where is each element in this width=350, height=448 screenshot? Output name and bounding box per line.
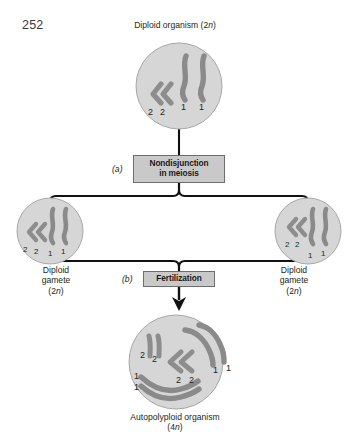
- chromosome-label: 2: [148, 107, 153, 117]
- caption-text: Diploid organism (2n): [134, 20, 216, 30]
- connector-box-to-gametes: [50, 183, 308, 206]
- caption-diploid-gamete-left: Diploid gamete (2n): [8, 265, 104, 296]
- process-box-fertilization: Fertilization: [143, 271, 215, 287]
- chromosome-label: 2: [176, 375, 181, 385]
- chromosome-label: 2: [285, 240, 290, 249]
- chromosome-label: 2: [23, 245, 28, 254]
- process-box-nondisjunction: Nondisjunction in meiosis: [133, 155, 225, 183]
- chromosome-label: 1: [321, 249, 326, 258]
- chromosome-label: 2: [152, 354, 157, 364]
- caption-line-3: (2n): [8, 286, 104, 296]
- chromosome-label: 2: [189, 375, 194, 385]
- caption-line-1: Diploid: [8, 265, 104, 275]
- caption-line-3: (2n): [246, 286, 342, 296]
- autopolyploidy-figure: 2 2 1 1 2 2 1 1: [0, 0, 350, 448]
- caption-line-1: Autopolyploid organism: [85, 412, 265, 422]
- chromosome-label: 1: [226, 363, 231, 373]
- process-marker-a: (a): [112, 164, 123, 174]
- chromosome-label: 2: [160, 107, 165, 117]
- chromosome-label: 1: [308, 251, 313, 260]
- chromosome-label: 1: [199, 102, 204, 112]
- cell-diploid-gamete-right: 2 2 1 1: [275, 198, 341, 264]
- process-line-2: in meiosis: [150, 169, 209, 179]
- chromosome-label: 1: [134, 382, 139, 392]
- caption-line-2: gamete: [246, 275, 342, 285]
- caption-line-2: (4n): [85, 422, 265, 432]
- process-marker-b: (b): [122, 274, 133, 284]
- chromosome-label: 1: [134, 371, 139, 381]
- caption-autopolyploid-organism: Autopolyploid organism (4n): [85, 412, 265, 433]
- cell-diploid-gamete-left: 2 2 1 1: [17, 198, 83, 264]
- chromosome-label: 1: [181, 102, 186, 112]
- cell-diploid-organism: 2 2 1 1: [136, 43, 222, 129]
- cell-autopolyploid-organism: 2 2 2 2 1 1 1 1: [129, 315, 231, 409]
- chromosome-label: 2: [34, 247, 39, 256]
- chromosome-label: 2: [295, 240, 300, 249]
- caption-diploid-gamete-right: Diploid gamete (2n): [246, 265, 342, 296]
- caption-diploid-organism: Diploid organism (2n): [95, 20, 255, 30]
- caption-line-2: gamete: [8, 275, 104, 285]
- chromosome-label: 2: [140, 350, 145, 360]
- chromosome-label: 1: [61, 247, 66, 256]
- caption-line-1: Diploid: [246, 265, 342, 275]
- process-line-1: Fertilization: [156, 274, 201, 284]
- chromosome-label: 1: [48, 249, 53, 258]
- figure-graphics: 2 2 1 1 2 2 1 1: [0, 0, 350, 448]
- chromosome-label: 1: [213, 365, 218, 375]
